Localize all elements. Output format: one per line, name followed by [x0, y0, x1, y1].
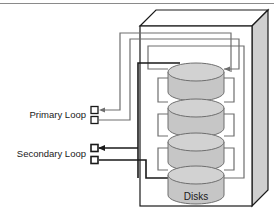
primary-loop-arrowhead-terminal	[99, 108, 105, 113]
loop-terminals	[91, 107, 98, 164]
secondary-loop-arrowhead-terminal	[98, 145, 105, 151]
disk-array-diagram: Primary Loop Secondary Loop Disks	[0, 0, 274, 212]
disk-2	[168, 99, 224, 137]
diagram-canvas: Primary Loop Secondary Loop Disks	[0, 0, 274, 212]
disk-4-top	[168, 166, 224, 184]
disk-3-top	[168, 133, 224, 151]
primary-terminal-out[interactable]	[91, 117, 98, 124]
primary-loop-label: Primary Loop	[30, 109, 87, 120]
secondary-loop-label: Secondary Loop	[17, 148, 86, 159]
disk-1	[168, 63, 224, 101]
cabinet-top-face	[140, 10, 268, 26]
disk-3	[168, 133, 224, 171]
cabinet-side-face	[252, 10, 268, 206]
disk-2-top	[168, 99, 224, 117]
disks-label: Disks	[184, 191, 208, 202]
disk-stack	[168, 63, 224, 204]
primary-terminal-in[interactable]	[91, 107, 98, 114]
secondary-terminal-in[interactable]	[91, 145, 98, 152]
disk-1-top	[168, 63, 224, 81]
secondary-terminal-out[interactable]	[91, 157, 98, 164]
